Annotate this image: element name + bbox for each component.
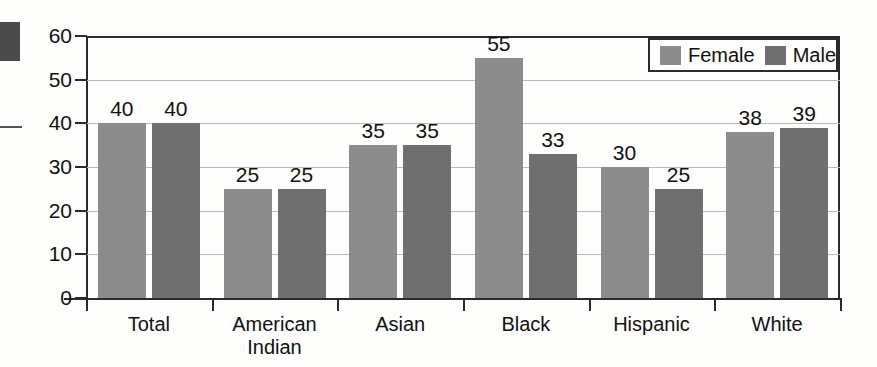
y-tick-label: 0 <box>28 287 72 308</box>
y-tick-mark <box>75 253 87 255</box>
bar-white-male <box>780 128 828 298</box>
y-tick-mark <box>75 35 87 37</box>
bar-value-label: 40 <box>98 98 146 119</box>
legend-swatch-male-icon <box>765 46 786 65</box>
bar-value-label: 39 <box>780 103 828 124</box>
legend-entry-female: Female <box>660 45 755 65</box>
x-tick-mark <box>463 300 465 311</box>
bar-hispanic-male <box>655 189 703 298</box>
x-tick-mark <box>337 300 339 311</box>
category-label-white: White <box>714 313 840 336</box>
y-tick-mark <box>75 210 87 212</box>
bar-value-label: 40 <box>152 98 200 119</box>
y-tick-label: 10 <box>28 243 72 264</box>
bar-asian-male <box>403 145 451 298</box>
x-axis-line <box>64 298 842 300</box>
category-label-line: Black <box>463 313 589 336</box>
category-label-line: Total <box>86 313 212 336</box>
chart-page: 404025253535553330253839 0102030405060 T… <box>0 0 877 367</box>
category-label-line: Indian <box>212 336 338 359</box>
scan-artifact-block <box>0 22 20 61</box>
category-label-line: Hispanic <box>589 313 715 336</box>
plot-area: 404025253535553330253839 <box>86 36 840 298</box>
bar-value-label: 55 <box>475 33 523 54</box>
bar-value-label: 35 <box>349 120 397 141</box>
category-label-line: American <box>212 313 338 336</box>
y-tick-label: 50 <box>28 69 72 90</box>
y-tick-mark <box>75 79 87 81</box>
bar-value-label: 33 <box>529 129 577 150</box>
y-tick-label: 30 <box>28 156 72 177</box>
legend-entry-male: Male <box>765 45 836 65</box>
category-label-line: Asian <box>337 313 463 336</box>
bar-asian-female <box>349 145 397 298</box>
bar-value-label: 38 <box>726 107 774 128</box>
bar-black-male <box>529 154 577 298</box>
bar-american-indian-female <box>224 189 272 298</box>
category-label-american-indian: AmericanIndian <box>212 313 338 359</box>
bar-hispanic-female <box>601 167 649 298</box>
category-label-hispanic: Hispanic <box>589 313 715 336</box>
gridline <box>86 80 840 81</box>
scan-artifact-rule <box>0 126 22 128</box>
bar-total-female <box>98 123 146 298</box>
bar-total-male <box>152 123 200 298</box>
y-tick-mark <box>75 122 87 124</box>
category-label-black: Black <box>463 313 589 336</box>
bar-value-label: 30 <box>601 142 649 163</box>
x-tick-mark <box>212 300 214 311</box>
bar-white-female <box>726 132 774 298</box>
bar-american-indian-male <box>278 189 326 298</box>
x-tick-mark <box>840 300 842 311</box>
bar-value-label: 25 <box>278 164 326 185</box>
chart-legend: Female Male <box>648 38 838 72</box>
bar-value-label: 35 <box>403 120 451 141</box>
y-tick-label: 20 <box>28 200 72 221</box>
y-tick-mark <box>75 166 87 168</box>
y-tick-mark <box>75 297 87 299</box>
bar-value-label: 25 <box>655 164 703 185</box>
y-tick-label: 40 <box>28 112 72 133</box>
category-label-line: White <box>714 313 840 336</box>
x-tick-mark <box>589 300 591 311</box>
x-tick-mark <box>714 300 716 311</box>
legend-swatch-female-icon <box>660 46 681 65</box>
y-tick-label: 60 <box>28 25 72 46</box>
bar-black-female <box>475 58 523 298</box>
legend-label-female: Female <box>688 45 755 65</box>
category-label-asian: Asian <box>337 313 463 336</box>
legend-label-male: Male <box>793 45 836 65</box>
category-label-total: Total <box>86 313 212 336</box>
x-tick-mark <box>86 300 88 311</box>
bar-value-label: 25 <box>224 164 272 185</box>
